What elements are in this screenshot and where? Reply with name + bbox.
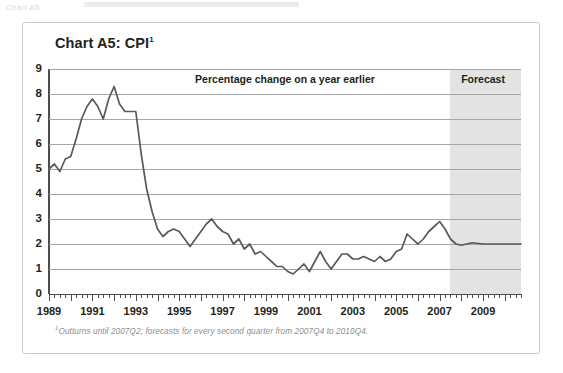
x-tick (347, 294, 348, 298)
x-tick (206, 294, 207, 298)
x-axis-label-2003: 2003 (341, 305, 365, 317)
x-tick (233, 294, 234, 298)
x-tick (440, 294, 441, 301)
x-tick (130, 294, 131, 298)
x-tick (423, 294, 424, 298)
page-top-fragment: Chart A5 (6, 0, 306, 12)
y-axis-label-0: 0 (36, 288, 42, 300)
x-tick (87, 294, 88, 298)
x-tick (293, 294, 294, 298)
page-top-fragment-text: Chart A5 (6, 3, 40, 12)
x-tick (125, 294, 126, 298)
x-tick (337, 294, 338, 298)
x-tick (483, 294, 484, 301)
x-tick (136, 294, 137, 301)
x-tick (266, 294, 267, 301)
x-tick (195, 294, 196, 298)
x-tick (326, 294, 327, 298)
chart-title-footnote-marker: 1 (149, 35, 154, 44)
x-axis-label-2001: 2001 (297, 305, 321, 317)
y-axis-label-6: 6 (36, 138, 42, 150)
x-tick (434, 294, 435, 298)
x-tick (396, 294, 397, 301)
x-tick (499, 294, 500, 298)
page-top-fragment-bar (84, 2, 299, 7)
x-tick (429, 294, 430, 298)
x-tick (179, 294, 180, 301)
x-tick (65, 294, 66, 298)
x-tick (516, 294, 517, 298)
x-axis-label-2005: 2005 (384, 305, 408, 317)
x-tick (309, 294, 310, 301)
x-tick (223, 294, 224, 301)
chart-footnote: 1Outturns until 2007Q2; forecasts for ev… (55, 325, 368, 336)
x-tick (255, 294, 256, 298)
x-tick (445, 294, 446, 298)
x-axis-label-2009: 2009 (471, 305, 495, 317)
x-tick (412, 294, 413, 298)
x-tick (407, 294, 408, 298)
x-axis-label-1999: 1999 (254, 305, 278, 317)
x-axis-label-1989: 1989 (37, 305, 61, 317)
y-axis-label-2: 2 (36, 238, 42, 250)
y-axis-label-3: 3 (36, 213, 42, 225)
x-axis-label-2007: 2007 (427, 305, 451, 317)
x-tick (71, 294, 72, 301)
x-tick (456, 294, 457, 298)
x-tick (331, 294, 332, 301)
x-tick (250, 294, 251, 298)
x-tick (185, 294, 186, 298)
chart-title: Chart A5: CPI1 (55, 35, 154, 51)
x-tick (190, 294, 191, 298)
x-tick (103, 294, 104, 298)
x-tick (82, 294, 83, 298)
x-axis-label-1993: 1993 (124, 305, 148, 317)
x-tick (98, 294, 99, 298)
series-path-cpi (49, 87, 521, 275)
x-tick (76, 294, 77, 298)
x-tick (391, 294, 392, 298)
chart-title-text: Chart A5: CPI (55, 35, 149, 51)
chart-panel: Chart A5: CPI1 Percentage change on a ye… (22, 22, 540, 354)
y-axis-label-9: 9 (36, 63, 42, 75)
x-tick (244, 294, 245, 301)
x-tick (299, 294, 300, 298)
x-axis-label-1991: 1991 (80, 305, 104, 317)
y-axis-label-4: 4 (36, 188, 42, 200)
x-tick (49, 294, 50, 301)
x-tick (385, 294, 386, 298)
x-tick (282, 294, 283, 298)
x-tick (472, 294, 473, 298)
x-axis-label-1997: 1997 (210, 305, 234, 317)
x-tick (510, 294, 511, 298)
x-tick (288, 294, 289, 301)
x-tick (505, 294, 506, 301)
x-tick (478, 294, 479, 298)
x-tick (217, 294, 218, 298)
x-tick (358, 294, 359, 298)
x-tick (261, 294, 262, 298)
x-tick (380, 294, 381, 298)
x-tick (369, 294, 370, 298)
x-tick (342, 294, 343, 298)
x-tick (120, 294, 121, 298)
x-tick (147, 294, 148, 298)
y-axis-label-1: 1 (36, 263, 42, 275)
x-tick (92, 294, 93, 301)
x-tick (60, 294, 61, 298)
x-tick (364, 294, 365, 298)
x-tick (353, 294, 354, 301)
x-tick (402, 294, 403, 298)
y-axis-label-8: 8 (36, 88, 42, 100)
y-axis-label-7: 7 (36, 113, 42, 125)
x-tick (239, 294, 240, 298)
x-tick (521, 294, 522, 298)
x-tick (174, 294, 175, 298)
x-tick (450, 294, 451, 298)
x-tick (228, 294, 229, 298)
x-tick (114, 294, 115, 301)
x-tick (152, 294, 153, 298)
x-tick (418, 294, 419, 301)
x-tick (304, 294, 305, 298)
x-tick (467, 294, 468, 298)
